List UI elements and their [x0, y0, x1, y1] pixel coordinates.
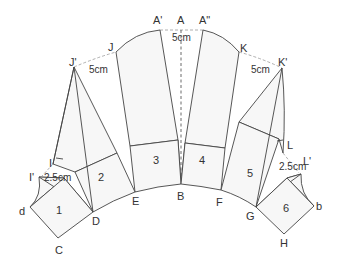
panel-number-1: 1 [56, 204, 62, 216]
panel-4-upper [185, 30, 239, 148]
panel-number-5: 5 [247, 167, 253, 179]
label-g: G [246, 210, 255, 222]
panel-4 [181, 143, 225, 190]
label-b-upper: B [177, 190, 184, 202]
label-h: H [280, 237, 288, 249]
label-j: J [108, 41, 114, 53]
panel-3 [130, 140, 181, 192]
label-k: K [240, 42, 248, 54]
label-a-prime: A' [153, 14, 162, 26]
label-d: d [19, 205, 25, 217]
label-k-prime: K' [278, 56, 287, 68]
panel-number-6: 6 [283, 202, 289, 214]
label-e: E [132, 195, 139, 207]
dim-right-small: 2.5cm [279, 161, 306, 172]
dim-right: 5cm [251, 64, 270, 75]
dim-left: 5cm [89, 64, 108, 75]
dim-left-small: 2.5cm [44, 172, 71, 183]
label-j-prime: J' [69, 56, 77, 68]
label-a: A [177, 14, 185, 26]
panel-number-4: 4 [199, 154, 205, 166]
panel-3-upper [116, 30, 178, 146]
label-b: b [316, 200, 322, 212]
label-d-upper: D [92, 215, 100, 227]
label-f: F [216, 196, 223, 208]
panel-number-2: 2 [98, 171, 104, 183]
skirt-pattern-diagram: A' A A" J K J' K' I L I' L' d b C D E B … [0, 0, 341, 273]
label-l: L [287, 139, 293, 151]
dim-center: 5cm [172, 32, 191, 43]
panel-number-3: 3 [153, 154, 159, 166]
label-c: C [55, 244, 63, 256]
label-i: I [49, 157, 52, 169]
label-i-prime: I' [29, 171, 34, 183]
label-a-double: A" [199, 14, 210, 26]
